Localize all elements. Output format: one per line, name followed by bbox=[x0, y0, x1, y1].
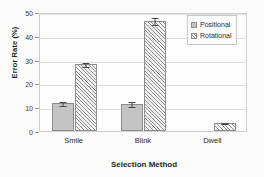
legend-item-label: Rotational bbox=[200, 30, 232, 41]
x-axis-category-label: Dwell bbox=[203, 136, 221, 145]
x-axis-category-label: Blink bbox=[135, 136, 151, 145]
error-bar bbox=[132, 102, 133, 108]
y-axis-tick-label: 0 bbox=[3, 129, 33, 136]
bar-rotational bbox=[75, 64, 97, 131]
bar-group bbox=[40, 14, 109, 131]
legend-swatch-icon bbox=[191, 33, 197, 39]
y-axis-tick-label: 10 bbox=[3, 105, 33, 112]
bar-rotational bbox=[144, 21, 166, 131]
legend-swatch-icon bbox=[191, 22, 197, 28]
error-bar bbox=[63, 102, 64, 107]
x-axis-category-label: Smile bbox=[64, 136, 83, 145]
y-axis-tick-label: 50 bbox=[3, 10, 33, 17]
y-axis-ticks: 01020304050 bbox=[0, 13, 39, 132]
legend-item-label: Positional bbox=[200, 19, 230, 30]
legend-item: Rotational bbox=[191, 30, 232, 41]
y-axis-tick-label: 40 bbox=[3, 33, 33, 40]
x-axis-title: Selection Method bbox=[39, 160, 249, 169]
bar-group bbox=[109, 14, 178, 131]
error-bar bbox=[155, 18, 156, 26]
bar-rotational bbox=[214, 123, 236, 131]
bar-chart-figure: Error Rate (%) 01020304050 SmileBlinkDwe… bbox=[0, 0, 264, 177]
legend-item: Positional bbox=[191, 19, 232, 30]
bar-positional bbox=[121, 104, 143, 131]
y-axis-tick-mark bbox=[35, 132, 39, 133]
error-bar bbox=[86, 63, 87, 68]
y-axis-tick-label: 20 bbox=[3, 81, 33, 88]
y-axis-tick-label: 30 bbox=[3, 57, 33, 64]
legend: PositionalRotational bbox=[187, 15, 237, 45]
bar-positional bbox=[52, 103, 74, 131]
error-bar bbox=[224, 123, 225, 125]
